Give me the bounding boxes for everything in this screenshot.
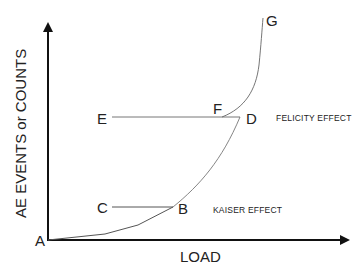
- felicity-effect-label: FELICITY EFFECT: [276, 113, 352, 123]
- point-label-G: G: [266, 12, 278, 29]
- point-label-B: B: [178, 200, 188, 217]
- kaiser-effect-label: KAISER EFFECT: [213, 205, 282, 215]
- point-label-A: A: [35, 232, 45, 249]
- y-axis-title: AE EVENTS or COUNTS: [12, 49, 29, 218]
- point-label-C: C: [97, 199, 108, 216]
- loading-curve-F-G: [222, 18, 263, 117]
- loading-curve-B-D: [173, 117, 240, 207]
- loading-curve-A-B: [48, 207, 173, 240]
- point-label-D: D: [246, 110, 257, 127]
- point-label-F: F: [213, 100, 222, 117]
- point-label-E: E: [97, 110, 107, 127]
- ae-kaiser-felicity-diagram: A B C D E F G KAISER EFFECT FELICITY EFF…: [0, 0, 357, 274]
- x-axis-title: LOAD: [180, 248, 221, 265]
